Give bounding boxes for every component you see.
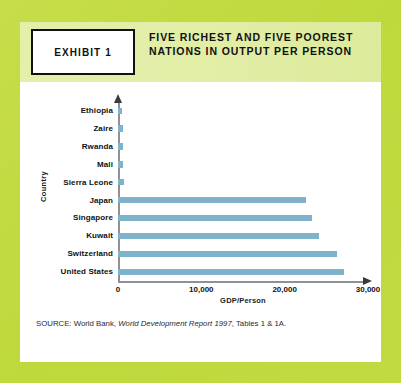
bar — [118, 251, 337, 257]
bar-row: Mali — [118, 156, 368, 173]
x-axis-tick-label: 20,000 — [272, 285, 296, 294]
bar-category-label: United States — [61, 263, 118, 280]
exhibit-number-label: EXHIBIT 1 — [54, 47, 112, 58]
x-axis-tick-label: 0 — [116, 285, 120, 294]
bar — [118, 197, 306, 203]
bar-row: Singapore — [118, 209, 368, 226]
exhibit-card: EXHIBIT 1 FIVE RICHEST AND FIVE POOREST … — [20, 22, 381, 362]
bar — [118, 125, 123, 131]
bar — [118, 233, 319, 239]
x-axis-line — [118, 281, 364, 283]
x-axis-tick-label: 10,000 — [189, 285, 213, 294]
bar — [118, 179, 124, 185]
bar-category-label: Rwanda — [82, 138, 118, 155]
bar-row: Sierra Leone — [118, 174, 368, 191]
source-suffix: , Tables 1 & 1A. — [232, 319, 286, 328]
exhibit-header: EXHIBIT 1 FIVE RICHEST AND FIVE POOREST … — [20, 22, 381, 82]
bar-row: Ethiopia — [118, 102, 368, 119]
bar-row: Kuwait — [118, 227, 368, 244]
source-note: SOURCE: World Bank, World Development Re… — [36, 318, 376, 329]
bar-row: United States — [118, 263, 368, 280]
y-axis-title: Country — [39, 155, 48, 219]
source-publication: World Development Report 1997 — [118, 319, 232, 328]
bar — [118, 161, 123, 167]
bar-category-label: Sierra Leone — [63, 174, 118, 191]
x-axis-title: GDP/Person — [118, 296, 368, 305]
bar-row: Zaire — [118, 120, 368, 137]
bar — [118, 269, 344, 275]
bar-category-label: Switzerland — [67, 245, 118, 262]
bar — [118, 108, 122, 114]
bar-row: Japan — [118, 192, 368, 209]
bar-category-label: Kuwait — [86, 227, 118, 244]
bar — [118, 215, 312, 221]
bar-series: EthiopiaZaireRwandaMaliSierra LeoneJapan… — [118, 102, 368, 281]
bar-category-label: Singapore — [73, 209, 118, 226]
bar-row: Switzerland — [118, 245, 368, 262]
bar-category-label: Ethiopia — [81, 102, 118, 119]
bar — [118, 143, 123, 149]
bar-row: Rwanda — [118, 138, 368, 155]
chart-plot-area: Country EthiopiaZaireRwandaMaliSierra Le… — [20, 82, 381, 304]
x-axis-tick-label: 30,000 — [356, 285, 380, 294]
exhibit-title: FIVE RICHEST AND FIVE POOREST NATIONS IN… — [149, 31, 364, 58]
source-prefix: SOURCE: World Bank, — [36, 319, 118, 328]
exhibit-number-box: EXHIBIT 1 — [31, 29, 135, 75]
bar-category-label: Zaire — [93, 120, 118, 137]
bar-category-label: Japan — [89, 192, 118, 209]
exhibit-page: EXHIBIT 1 FIVE RICHEST AND FIVE POOREST … — [0, 0, 401, 383]
bar-category-label: Mali — [97, 156, 118, 173]
